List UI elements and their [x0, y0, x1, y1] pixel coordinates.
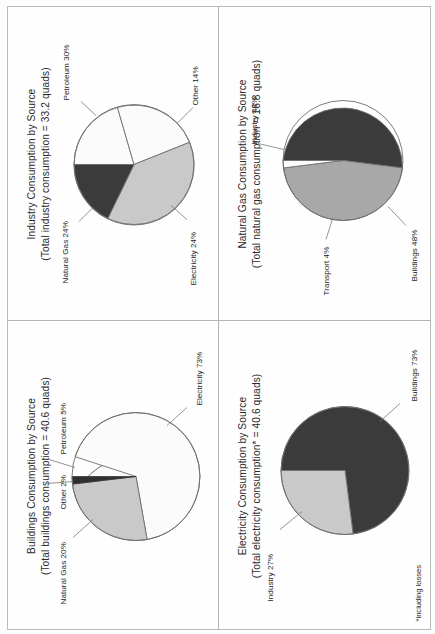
pie-natural-gas-svg	[280, 97, 406, 223]
chart-title-line1: Industry Consumption by Source	[26, 88, 37, 239]
leader-line-buildings	[380, 403, 400, 421]
pie-industry	[71, 101, 197, 227]
leader-line-natural-gas	[73, 519, 93, 537]
leader-line-transport	[326, 217, 333, 239]
chart-title-line1: Electricity Consumption by Source	[237, 396, 248, 554]
pie-slice-industry	[281, 470, 353, 534]
chart-title-line2: (Total electricity consumption* = 40.6 q…	[250, 322, 264, 629]
slice-label-industry: Industry 48%	[250, 96, 259, 144]
chart-title-line2: (Total industry consumption = 33.2 quads…	[39, 8, 53, 319]
slice-label-petroleum: Petroleum 5%	[59, 403, 68, 454]
slice-label-buildings: Buildings 48%	[410, 229, 419, 281]
leader-line-electricity	[171, 205, 187, 219]
leader-line-natural-gas	[79, 207, 93, 221]
chart-title-line2: (Total buildings consumption = 40.6 quad…	[39, 322, 53, 629]
leader-line-electricity	[167, 407, 187, 425]
pie-natural-gas	[280, 97, 406, 223]
panel-natural-gas: Natural Gas Consumption by Source (Total…	[219, 7, 431, 320]
leader-line-industry	[280, 511, 302, 529]
slice-label-transport: Transport 4%	[322, 246, 331, 295]
chart-title-line2: (Total natural gas consumption = 16.8 qu…	[250, 8, 264, 319]
leader-line-other	[177, 107, 193, 123]
panel-buildings: Buildings Consumption by Source (Total b…	[8, 321, 218, 630]
footnote-including-losses: *including losses	[414, 564, 423, 621]
document-sheet: Industry Consumption by Source (Total in…	[7, 6, 431, 630]
pie-industry-svg	[71, 101, 197, 227]
leader-line-buildings	[388, 206, 406, 225]
slice-label-other: Other 2%	[59, 474, 68, 509]
leader-line-petroleum	[49, 459, 75, 467]
pie-electricity-svg	[278, 403, 412, 537]
panel-industry: Industry Consumption by Source (Total in…	[8, 7, 218, 320]
slice-label-petroleum: Petroleum 30%	[62, 44, 71, 100]
chart-title-line1: Buildings Consumption by Source	[26, 398, 37, 554]
pie-buildings	[69, 409, 203, 543]
pie-electricity	[278, 403, 412, 537]
pie-slice-natural-gas	[72, 476, 147, 540]
page-root: Industry Consumption by Source (Total in…	[0, 0, 435, 634]
chart-title-electricity: Electricity Consumption by Source (Total…	[236, 322, 263, 629]
leader-line-petroleum	[81, 101, 96, 115]
slice-label-electricity: Electricity 73%	[195, 351, 204, 405]
chart-title-line1: Natural Gas Consumption by Source	[237, 79, 248, 248]
slice-label-industry: Industry 27%	[266, 553, 275, 601]
pie-slice-industry	[283, 107, 403, 167]
slice-label-other: Other 14%	[191, 66, 200, 105]
slice-label-buildings: Buildings 73%	[410, 349, 419, 401]
chart-title-industry: Industry Consumption by Source (Total in…	[25, 8, 52, 319]
pie-slice-transport	[283, 160, 402, 220]
panel-electricity: Electricity Consumption by Source (Total…	[219, 321, 431, 630]
chart-title-natural-gas: Natural Gas Consumption by Source (Total…	[236, 8, 263, 319]
chart-title-buildings: Buildings Consumption by Source (Total b…	[25, 322, 52, 629]
slice-label-natural-gas: Natural Gas 24%	[61, 221, 70, 283]
slice-label-natural-gas: Natural Gas 20%	[59, 542, 68, 604]
slice-label-electricity: Electricity 24%	[189, 231, 198, 285]
pie-buildings-svg	[69, 409, 203, 543]
